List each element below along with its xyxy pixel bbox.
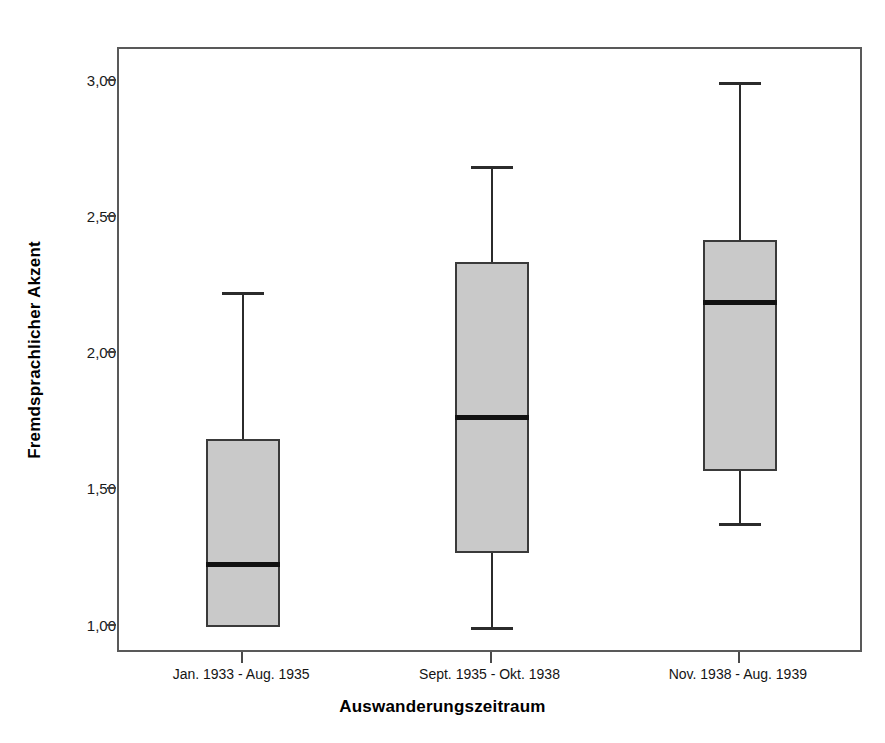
upper-whisker-cap	[222, 292, 264, 295]
upper-whisker-stem	[491, 166, 493, 261]
median-line	[455, 415, 529, 420]
x-tick-mark	[490, 652, 492, 663]
box-iqr-rect[interactable]	[703, 240, 777, 472]
upper-whisker-stem	[242, 292, 244, 439]
y-tick-mark	[107, 624, 116, 626]
y-tick-mark	[107, 351, 116, 353]
y-tick-mark	[107, 487, 116, 489]
median-line	[206, 562, 280, 567]
lower-whisker-stem	[491, 553, 493, 627]
boxplot-figure: Fremdsprachlicher Akzent 1,001,502,002,5…	[0, 0, 885, 743]
upper-whisker-stem	[739, 82, 741, 240]
median-line	[703, 300, 777, 305]
plot-area	[117, 47, 862, 652]
lower-whisker-cap	[719, 523, 761, 526]
x-tick-label: Jan. 1933 - Aug. 1935	[173, 666, 310, 682]
upper-whisker-cap	[719, 82, 761, 85]
box-iqr-rect[interactable]	[206, 439, 280, 627]
y-axis-title: Fremdsprachlicher Akzent	[22, 0, 48, 700]
scan-artifact-bottom	[0, 727, 885, 741]
y-axis-ticks: 1,001,502,002,503,00	[54, 47, 116, 652]
y-tick-mark	[107, 215, 116, 217]
x-tick-mark	[738, 652, 740, 663]
lower-whisker-stem	[739, 471, 741, 523]
x-tick-label: Sept. 1935 - Okt. 1938	[419, 666, 560, 682]
lower-whisker-cap	[471, 627, 513, 630]
x-tick-mark	[241, 652, 243, 663]
upper-whisker-cap	[471, 166, 513, 169]
x-tick-label: Nov. 1938 - Aug. 1939	[669, 666, 807, 682]
y-axis-title-text: Fremdsprachlicher Akzent	[25, 241, 45, 459]
y-tick-mark	[107, 79, 116, 81]
scan-artifact-top	[0, 0, 885, 7]
x-axis-title: Auswanderungszeitraum	[0, 697, 885, 717]
box-iqr-rect[interactable]	[455, 262, 529, 554]
